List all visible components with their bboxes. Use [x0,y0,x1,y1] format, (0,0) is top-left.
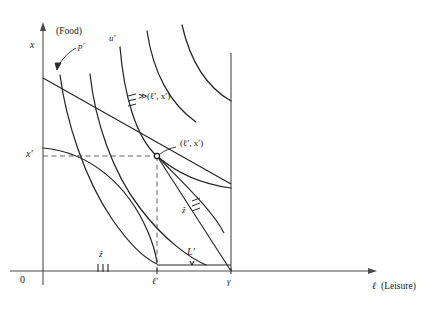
labor-bracket-tick [190,261,194,265]
budget-line-label: p′ [78,41,84,51]
indifference-curve-outer-upper [147,31,196,122]
optimum-point-marker [154,153,159,158]
labor-bracket-label: L′ [187,246,195,257]
gamma-tick-label: γ [227,276,231,286]
y-axis-name: (Food) [56,26,82,36]
y-axis-symbol: x [30,39,34,50]
y-axis-arrowhead [40,22,46,31]
z-hat-axis-label: ẑ [99,249,103,259]
budget-line-p-prime [43,78,231,184]
indifference-curve-left [60,75,157,264]
optimum-point-label: (ℓ′, x′) [180,138,203,148]
labor-segment-group [157,261,231,265]
x-prime-tick-label: x′ [26,148,33,159]
lower-envelope-curve [43,148,157,262]
z-hat-interior-label: ẑ [182,205,186,215]
ray-optimum-to-gamma-mid [157,156,224,233]
x-axis-symbol: ℓ [372,280,376,291]
origin-label: 0 [20,274,25,285]
diagram-canvas [0,0,423,312]
p-prime-leader [55,48,76,70]
preferred-set-label: ≫(ℓ′, x′) [138,91,170,101]
l-prime-tick-label: ℓ′ [152,276,158,286]
utility-curve-label: u′ [109,33,115,43]
indifference-curve-mid [90,74,206,265]
indifference-curve-u-prime [120,47,231,188]
indifference-curve-figure: x (Food) p′ u′ ≫(ℓ′, x′) (ℓ′, x′) x′ ẑ ẑ… [0,0,423,312]
indifference-curve-outer [182,25,231,101]
x-axis-name: (Leisure) [381,281,416,291]
budget-line-group [43,78,231,184]
x-axis-arrowhead [368,268,377,274]
